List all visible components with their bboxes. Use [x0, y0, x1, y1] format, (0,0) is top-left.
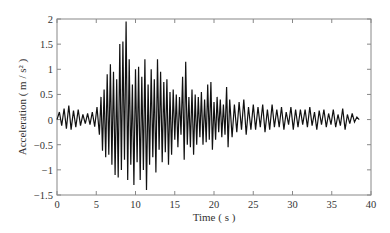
- x-tick-label: 0: [54, 199, 59, 210]
- x-tick-label: 30: [287, 199, 298, 210]
- y-axis-label: Acceleration ( m / s² ): [16, 58, 29, 155]
- x-tick-label: 10: [130, 199, 141, 210]
- x-tick-label: 40: [366, 199, 377, 210]
- x-tick-label: 25: [248, 199, 259, 210]
- x-tick-label: 35: [327, 199, 338, 210]
- x-axis-label: Time ( s ): [193, 211, 236, 224]
- x-tick-label: 5: [94, 199, 99, 210]
- y-tick-label: −1.5: [34, 190, 53, 201]
- acceleration-chart: 0510152025303540−1.5−1−0.500.511.52 Time…: [0, 0, 390, 233]
- x-tick-label: 20: [209, 199, 220, 210]
- y-tick-label: −0.5: [34, 140, 53, 151]
- y-tick-label: 1.5: [40, 39, 53, 50]
- y-tick-label: 2: [48, 14, 53, 25]
- y-tick-label: 0.5: [40, 89, 53, 100]
- y-tick-label: 0: [48, 115, 53, 126]
- y-tick-label: −1: [42, 165, 53, 176]
- x-tick-label: 15: [170, 199, 181, 210]
- y-tick-label: 1: [48, 64, 53, 75]
